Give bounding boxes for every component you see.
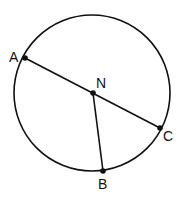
circle-diagram: A N C B: [0, 0, 184, 197]
point-a-dot: [22, 55, 28, 61]
label-b: B: [98, 176, 107, 192]
label-a: A: [9, 49, 19, 65]
point-c-dot: [157, 125, 163, 131]
point-b-dot: [100, 168, 106, 174]
point-n-dot: [90, 90, 96, 96]
segment-nb: [93, 93, 103, 171]
label-c: C: [163, 128, 173, 144]
label-n: N: [96, 75, 106, 91]
